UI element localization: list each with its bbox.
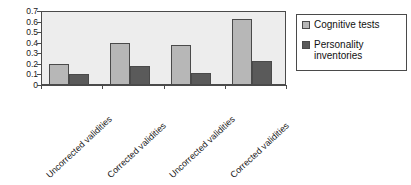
legend-label-cognitive: Cognitive tests xyxy=(314,19,380,30)
bar-cognitive-2 xyxy=(110,43,130,85)
legend-label-personality: Personality inventories xyxy=(314,39,402,61)
x-axis-tick xyxy=(286,85,287,89)
y-axis-line xyxy=(41,11,42,86)
x-axis-tick xyxy=(41,85,42,89)
bar-cognitive-1 xyxy=(49,64,69,85)
plot-area-wrapper xyxy=(41,11,286,85)
legend-swatch-icon-personality xyxy=(302,41,310,49)
y-axis-tick xyxy=(37,22,41,23)
bar-personality-4 xyxy=(252,61,272,85)
y-axis-tick xyxy=(37,64,41,65)
caption-cutoff xyxy=(6,182,166,185)
legend-item-personality-inventories: Personality inventories xyxy=(302,39,402,61)
x-axis-tick xyxy=(225,85,226,89)
y-axis-tick xyxy=(37,53,41,54)
x-axis-category-label: Corrected validities xyxy=(228,120,291,180)
x-axis-category-label: Uncorrected validities xyxy=(167,114,237,180)
bar-personality-1 xyxy=(69,74,89,85)
bar-chart: 00.10.20.30.40.50.60.7 Uncorrected valid… xyxy=(0,0,411,185)
legend-swatch-icon-cognitive xyxy=(302,21,310,29)
bar-cognitive-4 xyxy=(232,19,252,85)
bars-container xyxy=(41,11,286,85)
bar-cognitive-3 xyxy=(171,45,191,85)
bar-personality-2 xyxy=(130,66,150,85)
bar-personality-3 xyxy=(191,73,211,85)
x-axis-category-label: Corrected validities xyxy=(105,120,168,180)
x-axis-tick xyxy=(102,85,103,89)
y-axis-tick xyxy=(37,74,41,75)
x-axis-category-label: Uncorrected validities xyxy=(44,114,114,180)
legend-item-cognitive-tests: Cognitive tests xyxy=(302,19,402,30)
x-axis-tick xyxy=(164,85,165,89)
y-axis-labels: 00.10.20.30.40.50.60.7 xyxy=(0,0,38,86)
y-axis-tick xyxy=(37,11,41,12)
y-axis-tick xyxy=(37,32,41,33)
legend: Cognitive tests Personality inventories xyxy=(296,14,407,71)
y-axis-tick xyxy=(37,43,41,44)
